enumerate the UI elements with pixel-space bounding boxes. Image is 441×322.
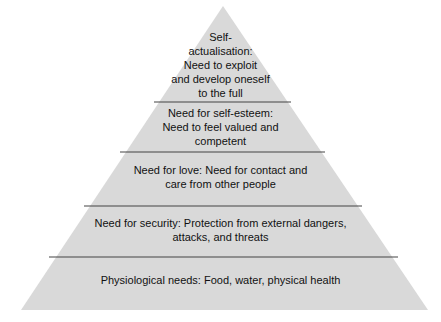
level-security: Need for security: Protection from exter…: [0, 216, 441, 244]
level-self-esteem: Need for self-esteem: Need to feel value…: [0, 106, 441, 148]
level-love: Need for love: Need for contact and care…: [0, 163, 441, 191]
level-physiological: Physiological needs: Food, water, physic…: [0, 273, 441, 287]
level-self-actualisation: Self- actualisation: Need to exploit and…: [0, 30, 441, 100]
